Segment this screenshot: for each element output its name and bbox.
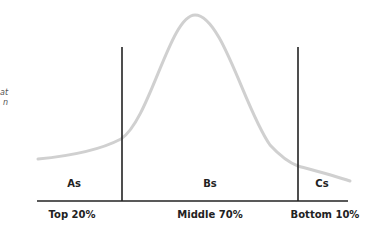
bell-curve-diagram	[0, 0, 369, 233]
segment-name-bs: Bs	[203, 178, 217, 189]
segment-label-top: Top 20%	[49, 209, 96, 220]
bell-curve	[38, 15, 350, 181]
segment-name-cs: Cs	[315, 178, 328, 189]
segment-label-middle: Middle 70%	[177, 209, 242, 220]
segment-label-bottom: Bottom 10%	[291, 209, 360, 220]
segment-name-as: As	[67, 178, 81, 189]
